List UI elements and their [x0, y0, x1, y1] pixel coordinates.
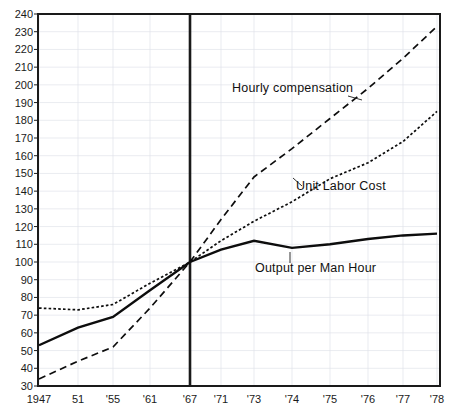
y-axis-tick-label: 100: [15, 256, 33, 268]
y-axis-tick-label: 200: [15, 79, 33, 91]
x-axis-tick-label: 51: [72, 393, 84, 405]
y-axis-tick-label: 60: [21, 327, 33, 339]
y-axis-tick-label: 80: [21, 291, 33, 303]
x-axis-tick-label: '78: [430, 393, 444, 405]
y-axis-tick-label: 240: [15, 8, 33, 20]
y-axis-tick-label: 140: [15, 185, 33, 197]
y-axis-tick-label: 190: [15, 97, 33, 109]
x-axis-tick-label: '76: [361, 393, 375, 405]
x-axis-tick-label: '67: [183, 393, 197, 405]
y-axis-tick-label: 160: [15, 150, 33, 162]
y-axis-tick-label: 220: [15, 43, 33, 55]
series-label-unit-labor-cost: Unit Labor Cost: [296, 179, 386, 193]
x-axis-tick-label: 1947: [27, 393, 51, 405]
y-axis-tick-label: 50: [21, 345, 33, 357]
x-axis-tick-label: '61: [143, 393, 157, 405]
y-axis-tick-label: 130: [15, 203, 33, 215]
series-label-hourly-compensation: Hourly compensation: [232, 81, 353, 95]
x-axis-tick-label: '55: [106, 393, 120, 405]
x-axis-tick-label: '71: [214, 393, 228, 405]
y-axis-tick-label: 110: [15, 238, 33, 250]
index-line-chart: 2402302202102001901801701601501401301201…: [0, 0, 455, 420]
x-axis-tick-label: '77: [396, 393, 410, 405]
y-axis-tick-label: 90: [21, 274, 33, 286]
x-axis-tick-label: '74: [285, 393, 299, 405]
y-axis-tick-label: 230: [15, 26, 33, 38]
x-axis-tick-label: '73: [247, 393, 261, 405]
y-axis-tick-label: 70: [21, 309, 33, 321]
y-axis-tick-label: 180: [15, 114, 33, 126]
y-axis-tick-label: 30: [21, 380, 33, 392]
y-axis-tick-label: 170: [15, 132, 33, 144]
chart-container: 2402302202102001901801701601501401301201…: [0, 0, 455, 420]
y-axis-tick-label: 40: [21, 362, 33, 374]
x-axis-tick-label: '75: [323, 393, 337, 405]
y-axis-tick-label: 120: [15, 221, 33, 233]
y-axis-tick-label: 210: [15, 61, 33, 73]
series-label-output-per-man-hour: Output per Man Hour: [255, 261, 376, 275]
y-axis-tick-label: 150: [15, 167, 33, 179]
